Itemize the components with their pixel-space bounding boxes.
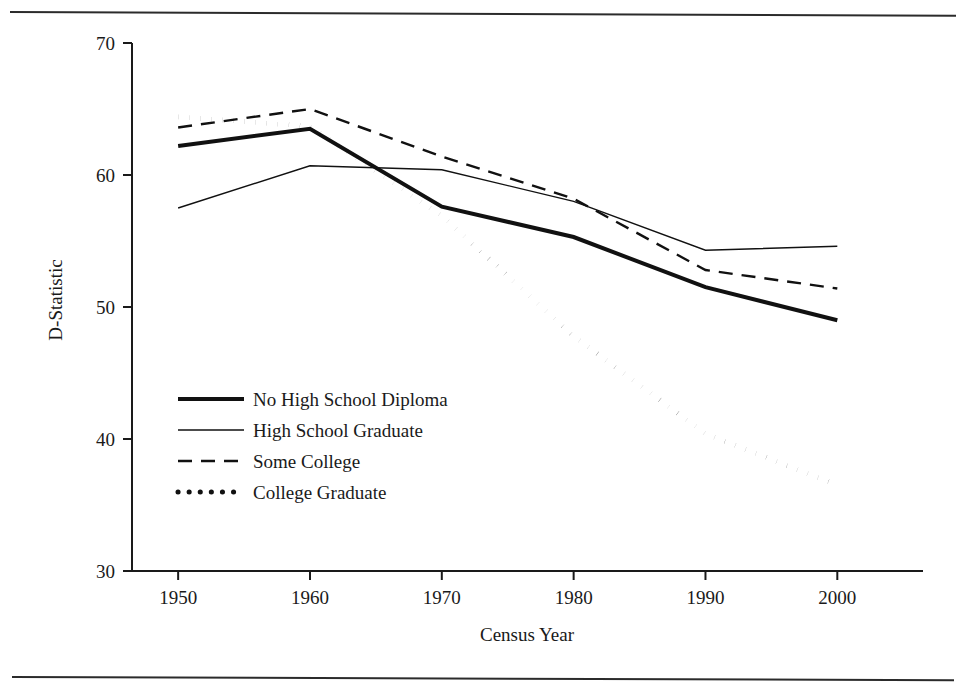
legend-label: Some College	[253, 451, 360, 472]
x-tick-label: 1970	[423, 587, 461, 608]
x-tick-label: 1950	[159, 587, 197, 608]
y-tick-label-group: 3040506070	[96, 33, 115, 582]
legend-label: College Graduate	[253, 482, 386, 503]
legend-label: High School Graduate	[253, 420, 423, 441]
y-axis-title: D-Statistic	[45, 259, 66, 340]
x-tick-label: 2000	[818, 587, 856, 608]
legend-label: No High School Diploma	[253, 389, 448, 410]
x-tick-label: 1980	[555, 587, 593, 608]
y-tick-group	[123, 43, 132, 571]
y-tick-label: 50	[96, 297, 115, 318]
series-line-thick-solid	[178, 129, 837, 320]
chart-svg: 3040506070 195019601970198019902000 D-St…	[0, 0, 966, 699]
x-tick-label: 1990	[686, 587, 724, 608]
x-tick-label: 1960	[291, 587, 329, 608]
line-chart: 3040506070 195019601970198019902000 D-St…	[0, 0, 966, 699]
x-axis-title: Census Year	[480, 624, 575, 645]
figure-container: 3040506070 195019601970198019902000 D-St…	[0, 0, 966, 699]
x-tick-group	[178, 571, 837, 580]
y-tick-label: 60	[96, 165, 115, 186]
series-line-thin-solid	[178, 166, 837, 250]
series-line-dashed	[178, 109, 837, 289]
y-tick-label: 70	[96, 33, 115, 54]
y-tick-label: 40	[96, 429, 115, 450]
chart-legend: No High School DiplomaHigh School Gradua…	[178, 389, 448, 503]
y-tick-label: 30	[96, 561, 115, 582]
x-tick-label-group: 195019601970198019902000	[159, 587, 856, 608]
